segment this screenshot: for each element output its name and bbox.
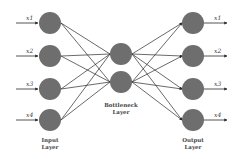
output-node-4 (182, 109, 204, 131)
input-node-4 (39, 109, 61, 131)
output-var-x1: x1 (214, 14, 221, 21)
output-var-x3: x3 (214, 80, 221, 87)
output-var-x2: x2 (214, 47, 221, 54)
output-layer-label-line2: Layer (184, 144, 201, 151)
bottleneck-layer-nodes (110, 43, 132, 93)
edges-bottleneck-output (132, 23, 182, 120)
input-node-3 (39, 78, 61, 100)
bottleneck-layer-label-line2: Layer (112, 109, 129, 116)
output-var-x4: x4 (214, 111, 221, 118)
bottleneck-node-1 (110, 43, 132, 65)
input-arrows (16, 23, 38, 120)
input-var-x4: x4 (26, 111, 33, 118)
bottleneck-node-2 (110, 71, 132, 93)
output-node-3 (182, 78, 204, 100)
input-node-1 (39, 12, 61, 34)
input-layer-label-line2: Layer (41, 144, 58, 151)
output-node-2 (182, 45, 204, 67)
input-layer-label-line1: Input (42, 137, 59, 144)
output-arrows (204, 23, 227, 120)
output-layer-label-line1: Output (182, 137, 204, 144)
input-var-x3: x3 (26, 80, 33, 87)
input-layer-nodes (39, 12, 61, 131)
edges-input-bottleneck (61, 23, 110, 120)
input-node-2 (39, 45, 61, 67)
bottleneck-layer-label-line1: Bottleneck (104, 102, 138, 108)
input-var-x1: x1 (26, 14, 33, 21)
output-node-1 (182, 12, 204, 34)
output-layer-nodes (182, 12, 204, 131)
input-var-x2: x2 (26, 47, 33, 54)
autoencoder-diagram: x1 x2 x3 x4 (0, 0, 240, 159)
